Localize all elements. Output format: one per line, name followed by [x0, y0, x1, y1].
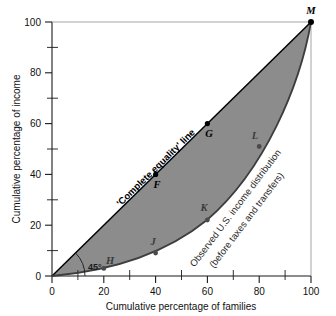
point-label-M: M [305, 5, 316, 16]
point-marker-G [205, 121, 210, 126]
y-tick-label-60: 60 [30, 118, 42, 129]
lorenz-curve-figure: 0 20 40 60 80 100 0 20 40 60 80 100 Cumu… [0, 0, 336, 316]
point-marker-L [257, 144, 262, 149]
y-tick-label-20: 20 [30, 220, 42, 231]
chart-canvas: 0 20 40 60 80 100 0 20 40 60 80 100 Cumu… [0, 0, 336, 316]
point-marker-M [308, 19, 314, 25]
x-tick-label-0: 0 [49, 286, 55, 297]
point-marker-H [101, 266, 106, 271]
x-tick-label-80: 80 [254, 286, 266, 297]
point-label-H: H [105, 255, 115, 266]
point-label-G: G [205, 128, 213, 139]
angle-label-45: 45° [88, 262, 102, 272]
point-label-L: L [251, 130, 258, 141]
point-marker-K [205, 218, 210, 223]
point-marker-J [153, 251, 158, 256]
point-label-K: K [199, 202, 208, 213]
x-tick-label-60: 60 [202, 286, 214, 297]
y-tick-label-80: 80 [30, 67, 42, 78]
x-tick-label-100: 100 [303, 286, 320, 297]
point-label-F: F [152, 179, 160, 190]
y-tick-label-40: 40 [30, 169, 42, 180]
y-axis-title: Cumulative percentage of income [11, 74, 22, 223]
x-axis-title: Cumulative percentage of families [106, 301, 257, 312]
y-tick-label-0: 0 [35, 271, 41, 282]
x-tick-label-40: 40 [150, 286, 162, 297]
x-tick-label-20: 20 [98, 286, 110, 297]
y-tick-label-100: 100 [24, 17, 41, 28]
point-label-J: J [149, 236, 156, 247]
